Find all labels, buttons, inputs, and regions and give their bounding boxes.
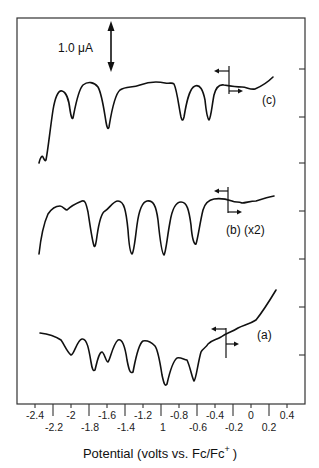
series-label-c: (c) xyxy=(262,93,276,107)
x-axis-title: Potential (volts vs. Fc/Fc+) xyxy=(83,444,237,461)
x-tick-label: -0.6 xyxy=(189,421,207,433)
series-label-b: (b) (x2) xyxy=(226,223,265,237)
scale-bar-label: 1.0 μA xyxy=(58,41,93,55)
trace-c xyxy=(39,77,273,163)
x-tick-label: -0.4 xyxy=(206,409,224,421)
voltammogram-chart: -2.4 -2 -1.6 -1.2 -0.8 -0.4 0 0.4 -2.2 -… xyxy=(0,0,319,468)
x-tick-labels-bottom: -2.2 -1.8 -1.4 1 -0.6 -0.2 0.2 xyxy=(45,421,276,433)
x-tick-label: -1.4 xyxy=(117,421,135,433)
reversal-marker-b xyxy=(214,187,242,215)
x-tick-label: 1 xyxy=(160,421,166,433)
x-tick-label: -1.6 xyxy=(98,409,116,421)
plot-frame xyxy=(17,18,305,404)
trace-a xyxy=(40,290,276,385)
x-tick-label: -2 xyxy=(66,409,75,421)
reversal-marker-a xyxy=(211,327,239,359)
reversal-marker-c xyxy=(214,66,243,94)
x-tick-label: -2.2 xyxy=(45,421,63,433)
x-tick-label: -1.2 xyxy=(134,409,152,421)
x-tick-label: -1.8 xyxy=(81,421,99,433)
x-tick-label: 0.4 xyxy=(280,409,295,421)
x-tick-label: 0.2 xyxy=(262,421,277,433)
right-axis-ticks xyxy=(299,69,305,355)
x-tick-label: -0.2 xyxy=(225,421,243,433)
series-label-a: (a) xyxy=(257,328,272,342)
x-tick-label: 0 xyxy=(248,409,254,421)
x-tick-labels-top: -2.4 -2 -1.6 -1.2 -0.8 -0.4 0 0.4 xyxy=(26,409,294,421)
x-tick-label: -2.4 xyxy=(26,409,44,421)
scale-bar: 1.0 μA xyxy=(58,21,115,72)
x-tick-label: -0.8 xyxy=(170,409,188,421)
